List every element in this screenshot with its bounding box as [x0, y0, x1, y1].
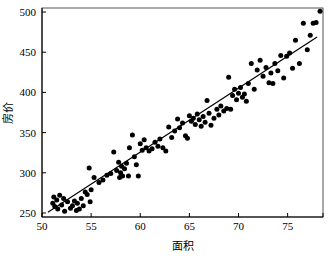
data-point — [185, 136, 190, 141]
data-point — [61, 196, 66, 201]
data-point — [88, 199, 93, 204]
data-point — [218, 104, 223, 109]
data-point — [205, 98, 210, 103]
data-point — [261, 74, 266, 79]
y-tick-label: 400 — [20, 86, 37, 98]
data-point — [163, 149, 168, 154]
data-point — [100, 178, 105, 183]
data-point — [85, 192, 90, 197]
data-point — [122, 166, 127, 171]
y-tick-label: 250 — [20, 207, 37, 219]
data-point — [252, 87, 257, 92]
data-point — [177, 125, 182, 130]
data-point — [126, 174, 131, 179]
data-point — [132, 154, 137, 159]
data-point — [169, 135, 174, 140]
data-point — [142, 137, 147, 142]
data-point — [55, 206, 60, 211]
data-point — [134, 162, 139, 167]
y-tick-label: 450 — [20, 46, 37, 58]
data-point — [232, 87, 237, 92]
data-point — [152, 140, 157, 145]
data-point — [70, 203, 75, 208]
data-point — [244, 99, 249, 104]
data-point — [287, 51, 292, 56]
data-point — [111, 149, 116, 154]
data-point — [318, 9, 323, 14]
data-point — [268, 71, 273, 76]
data-point — [208, 123, 213, 128]
x-tick-label: 50 — [37, 220, 49, 232]
data-point — [77, 206, 82, 211]
data-point — [201, 114, 206, 119]
y-axis-title: 房价 — [2, 102, 14, 124]
data-point — [75, 201, 80, 206]
x-axis-title: 面积 — [172, 240, 194, 252]
data-point — [216, 112, 221, 117]
data-point — [290, 66, 295, 71]
data-point — [62, 209, 67, 214]
data-point — [249, 61, 254, 66]
data-point — [211, 116, 216, 121]
data-point — [127, 145, 132, 150]
x-tick-label: 75 — [282, 220, 294, 232]
data-point — [116, 160, 121, 165]
data-point — [278, 53, 283, 58]
data-point — [197, 117, 202, 122]
data-point — [193, 122, 198, 127]
data-point — [234, 97, 239, 102]
data-point — [57, 193, 62, 198]
data-point — [214, 107, 219, 112]
data-point — [270, 81, 275, 86]
y-tick-label: 350 — [20, 127, 37, 139]
x-tick-label: 65 — [184, 220, 196, 232]
x-tick-label: 55 — [86, 220, 98, 232]
data-point — [246, 81, 251, 86]
data-point — [120, 174, 125, 179]
data-point — [314, 20, 319, 25]
data-point — [207, 111, 212, 116]
data-point — [124, 161, 129, 166]
data-point — [65, 199, 70, 204]
data-point — [195, 112, 200, 117]
scatter-chart: 250300350400450500505560657075面积房价 — [0, 0, 331, 258]
data-point — [238, 85, 243, 90]
data-point — [92, 175, 97, 180]
data-point — [89, 187, 94, 192]
data-point — [255, 67, 260, 72]
data-point — [230, 93, 235, 98]
data-point — [293, 38, 298, 43]
plot-frame — [42, 8, 323, 217]
x-tick-label: 70 — [233, 220, 245, 232]
y-tick-label: 300 — [20, 167, 37, 179]
data-point — [301, 21, 306, 26]
data-point — [172, 128, 177, 133]
data-point — [130, 133, 135, 138]
data-point — [138, 141, 143, 146]
data-point — [108, 171, 113, 176]
data-point — [226, 75, 231, 80]
data-point — [275, 68, 280, 73]
chart-canvas: 250300350400450500505560657075面积房价 — [0, 0, 331, 258]
data-point — [81, 203, 86, 208]
data-point — [228, 107, 233, 112]
data-point — [305, 47, 310, 52]
data-point — [180, 120, 185, 125]
data-point — [157, 137, 162, 142]
data-point — [59, 202, 64, 207]
data-point — [258, 58, 263, 63]
data-point — [155, 144, 160, 149]
data-point — [175, 116, 180, 121]
data-point — [203, 120, 208, 125]
data-point — [308, 33, 313, 38]
data-point — [272, 61, 277, 66]
data-point — [87, 165, 92, 170]
data-point — [136, 174, 141, 179]
data-point — [236, 91, 241, 96]
data-point — [54, 198, 59, 203]
data-point — [264, 65, 269, 70]
data-point — [297, 61, 302, 66]
data-point — [150, 146, 155, 151]
data-point — [166, 124, 171, 129]
data-point — [191, 116, 196, 121]
